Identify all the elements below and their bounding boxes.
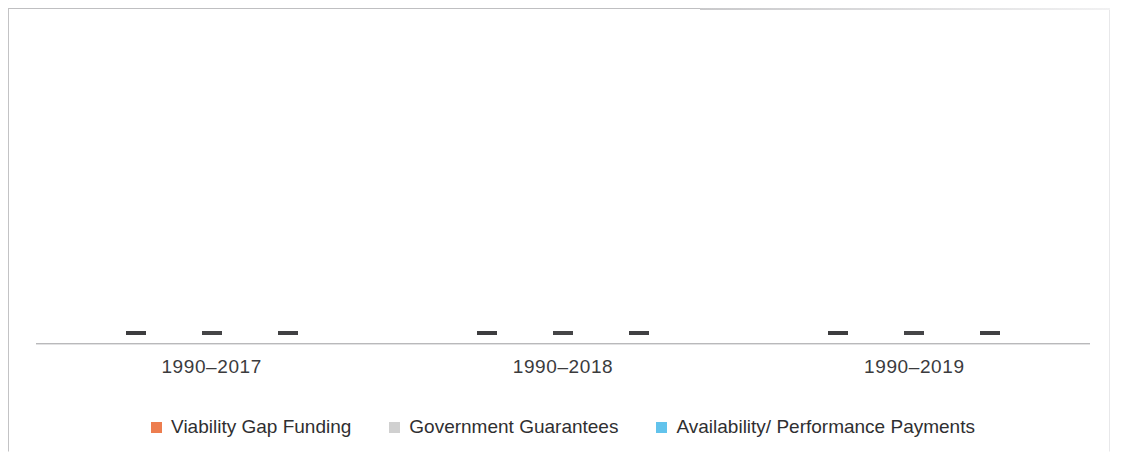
bar-mark[interactable] [629,331,649,335]
bar-group [36,14,387,343]
legend-label: Government Guarantees [409,416,618,438]
chart-legend: Viability Gap Funding Government Guarant… [36,416,1090,438]
bar-mark[interactable] [278,331,298,335]
bar-mark[interactable] [904,331,924,335]
legend-item-availability-performance-payments[interactable]: Availability/ Performance Payments [656,416,975,438]
legend-swatch-icon [656,422,667,433]
bar-mark[interactable] [202,331,222,335]
grouped-bar-chart: 1990–2017 1990–2018 1990–2019 Viability … [0,0,1128,459]
bar-mark[interactable] [553,331,573,335]
x-axis-tick-label: 1990–2017 [36,356,387,378]
legend-swatch-icon [389,422,400,433]
bar-mark[interactable] [828,331,848,335]
bar-group [387,14,738,343]
legend-item-viability-gap-funding[interactable]: Viability Gap Funding [151,416,351,438]
x-axis-tick-labels: 1990–2017 1990–2018 1990–2019 [36,356,1090,378]
x-axis-baseline [36,343,1090,344]
chart-page: 1990–2017 1990–2018 1990–2019 Viability … [0,0,1128,459]
x-axis-tick-label: 1990–2018 [387,356,738,378]
bar-mark[interactable] [126,331,146,335]
legend-label: Viability Gap Funding [171,416,351,438]
legend-label: Availability/ Performance Payments [676,416,975,438]
bar-mark[interactable] [980,331,1000,335]
x-axis-tick-label: 1990–2019 [739,356,1090,378]
legend-swatch-icon [151,422,162,433]
bar-group [739,14,1090,343]
legend-item-government-guarantees[interactable]: Government Guarantees [389,416,618,438]
bar-groups [36,14,1090,343]
bar-mark[interactable] [477,331,497,335]
